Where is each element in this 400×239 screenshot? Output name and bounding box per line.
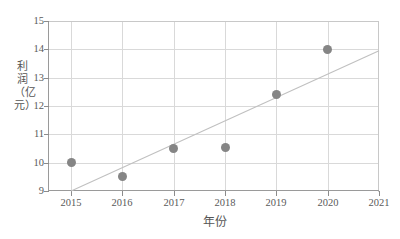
- y-tick-mark: [44, 134, 49, 135]
- y-tick-label: 11: [22, 129, 44, 139]
- y-tick-label: 15: [22, 16, 44, 26]
- y-tick-mark: [44, 21, 49, 22]
- x-tick-mark: [71, 191, 72, 196]
- x-tick-label: 2017: [152, 197, 196, 208]
- data-point: [272, 90, 281, 99]
- data-point: [67, 158, 76, 167]
- y-tick-mark: [44, 78, 49, 79]
- x-tick-label: 2019: [254, 197, 298, 208]
- data-point: [323, 45, 332, 54]
- y-tick-mark: [44, 191, 49, 192]
- x-tick-mark: [276, 191, 277, 196]
- y-tick-mark: [44, 163, 49, 164]
- y-tick-label: 14: [22, 44, 44, 54]
- x-tick-mark: [122, 191, 123, 196]
- y-tick-mark: [44, 49, 49, 50]
- chart-figure: 9101112131415 20152016201720182019202020…: [0, 0, 400, 239]
- y-axis-title: 利润（亿元）: [14, 60, 30, 112]
- x-tick-mark: [328, 191, 329, 196]
- data-point: [221, 143, 230, 152]
- x-tick-label: 2020: [306, 197, 350, 208]
- x-tick-mark: [379, 191, 380, 196]
- x-tick-label: 2018: [203, 197, 247, 208]
- x-tick-label: 2016: [100, 197, 144, 208]
- y-tick-label: 9: [22, 186, 44, 196]
- x-tick-label: 2021: [357, 197, 400, 208]
- y-tick-label: 10: [22, 158, 44, 168]
- x-axis-title: 年份: [0, 212, 400, 229]
- x-tick-mark: [225, 191, 226, 196]
- x-tick-mark: [174, 191, 175, 196]
- x-tick-label: 2015: [49, 197, 93, 208]
- y-tick-mark: [44, 106, 49, 107]
